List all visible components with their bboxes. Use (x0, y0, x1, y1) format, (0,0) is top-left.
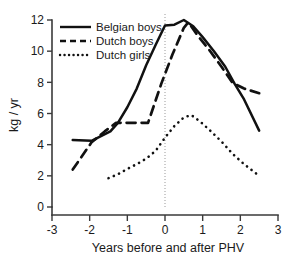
y-tick-label: 4 (37, 138, 44, 152)
x-tick-label: 2 (237, 223, 244, 237)
x-axis-title: Years before and after PHV (92, 241, 245, 255)
y-tick-label: 0 (37, 200, 44, 214)
y-tick-label: 8 (37, 76, 44, 90)
x-tick-label: 1 (199, 223, 206, 237)
y-axis-tick-labels: 024681012 (31, 13, 45, 214)
chart-container: -3-2-10123 024681012 Years before and af… (0, 0, 296, 262)
legend-label-dutch-girls: Dutch girls (96, 49, 151, 61)
y-tick-label: 2 (37, 169, 44, 183)
x-tick-label: -3 (47, 223, 58, 237)
x-tick-label: -2 (84, 223, 95, 237)
x-tick-label: -1 (122, 223, 133, 237)
x-axis-tick-labels: -3-2-10123 (47, 223, 282, 237)
chart-axes (47, 20, 278, 221)
growth-velocity-chart: -3-2-10123 024681012 Years before and af… (0, 0, 296, 262)
y-tick-label: 12 (31, 13, 45, 27)
legend-label-belgian-boys: Belgian boys (96, 21, 162, 33)
x-tick-label: 0 (162, 223, 169, 237)
series-line-dutch-girls (109, 115, 260, 178)
legend-label-dutch-boys: Dutch boys (96, 35, 154, 47)
x-tick-label: 3 (275, 223, 282, 237)
y-axis-title: kg / yr (7, 98, 21, 132)
chart-legend: Belgian boysDutch boysDutch girls (60, 21, 162, 61)
y-tick-label: 10 (31, 44, 45, 58)
y-tick-label: 6 (37, 107, 44, 121)
